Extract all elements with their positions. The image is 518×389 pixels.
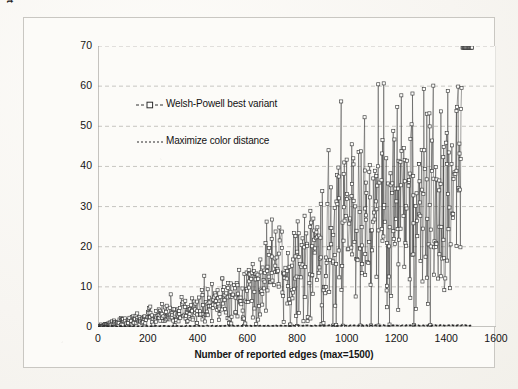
- x-tick-label: 1600: [476, 332, 516, 344]
- y-tick-label: 20: [66, 241, 92, 251]
- y-tick-label: 50: [66, 120, 92, 130]
- legend-label-welsh-powell: Welsh-Powell best variant: [166, 98, 277, 109]
- x-tick-label: 600: [227, 332, 267, 344]
- legend-label-maximize-color-distance: Maximize color distance: [166, 135, 269, 146]
- chart-frame: Everage PCI reassignments per single edg…: [23, 17, 495, 368]
- y-tick-label: 60: [66, 80, 92, 90]
- y-axis-title: Everage PCI reassignments per single edg…: [5, 0, 21, 32]
- y-tick-label: 30: [66, 201, 92, 211]
- x-tick-label: 1400: [426, 332, 466, 344]
- x-axis-title: Number of reported edges (max=1500): [84, 349, 484, 360]
- x-tick-label: 800: [277, 332, 317, 344]
- x-tick-label: 1000: [327, 332, 367, 344]
- x-tick-label: 400: [178, 332, 218, 344]
- chart-legend: Welsh-Powell best variant Maximize color…: [136, 96, 346, 170]
- y-tick-label: 0: [66, 321, 92, 331]
- x-tick-label: 1200: [377, 332, 417, 344]
- y-axis-tick-labels: 010203040506070: [62, 18, 92, 327]
- y-tick-label: 40: [66, 160, 92, 170]
- legend-entry-welsh-powell: Welsh-Powell best variant: [136, 96, 346, 110]
- x-axis-tick-labels: 02004006008001000120014001600: [24, 332, 496, 346]
- legend-marker-dotted-line: [136, 134, 166, 146]
- y-tick-label: 10: [66, 281, 92, 291]
- legend-entry-maximize-color-distance: Maximize color distance: [136, 133, 346, 147]
- plot-area: Welsh-Powell best variant Maximize color…: [98, 46, 496, 327]
- x-tick-label: 0: [78, 332, 118, 344]
- y-tick-label: 70: [66, 40, 92, 50]
- legend-marker-open-square-dashed: [136, 97, 166, 109]
- y-axis-title-text: Everage PCI reassignments per single edg…: [5, 0, 16, 32]
- x-tick-label: 200: [128, 332, 168, 344]
- chart-canvas: [98, 46, 496, 327]
